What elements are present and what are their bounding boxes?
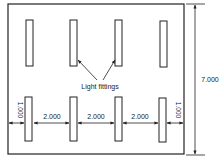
light-fitting <box>160 21 167 67</box>
callout-leaders <box>78 60 115 80</box>
callout-label: Light fittings <box>81 83 119 91</box>
dim-spacing-3: 2.000 <box>131 113 149 120</box>
lighting-layout-diagram: Light fittings 1.000 2.000 2.000 2.000 1… <box>0 0 223 162</box>
dim-room-height: 7.000 <box>201 76 219 83</box>
dim-left-end: 1.000 <box>17 102 24 119</box>
dim-spacing-1: 2.000 <box>43 113 61 120</box>
light-fitting <box>25 97 32 141</box>
fittings-top-row <box>26 20 167 67</box>
light-fitting <box>70 97 77 141</box>
light-fitting <box>115 20 122 66</box>
light-fitting <box>70 20 77 66</box>
dim-right-end: 1.000 <box>175 102 182 119</box>
light-fitting <box>115 97 122 141</box>
light-fitting <box>159 98 166 142</box>
dim-spacing-2: 2.000 <box>87 113 105 120</box>
light-fitting <box>26 20 33 66</box>
